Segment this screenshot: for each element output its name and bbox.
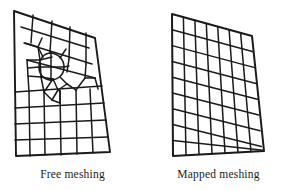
mapped-meshing-panel: Mapped meshing xyxy=(146,0,291,190)
free-mesh-diagram xyxy=(0,0,145,165)
mapped-mesh-diagram xyxy=(146,0,291,165)
mapped-mesh-col-line xyxy=(183,17,186,155)
mapped-meshing-caption: Mapped meshing xyxy=(146,167,291,181)
mesh-comparison-figure: Free meshing xyxy=(0,0,291,190)
mapped-mesh-col-line xyxy=(195,20,199,154)
mapped-mesh-col-line xyxy=(229,30,238,153)
free-meshing-caption: Free meshing xyxy=(0,167,145,181)
free-meshing-panel: Free meshing xyxy=(0,0,145,190)
